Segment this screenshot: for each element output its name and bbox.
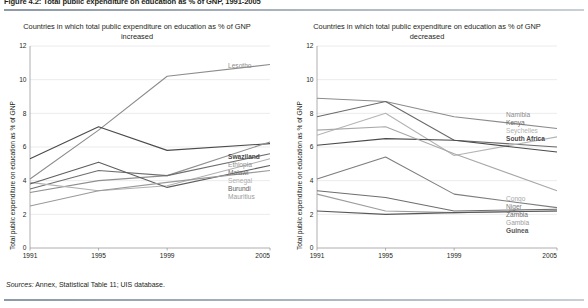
svg-text:4: 4 <box>310 177 314 184</box>
svg-text:2005: 2005 <box>255 252 270 259</box>
svg-text:2: 2 <box>310 211 314 218</box>
svg-text:8: 8 <box>310 110 314 117</box>
svg-text:10: 10 <box>306 76 314 83</box>
chart-panel-decreased: Countries in which total public expendit… <box>294 22 588 272</box>
legend-item: Namibia <box>506 111 545 119</box>
svg-text:1995: 1995 <box>378 252 393 259</box>
svg-text:12: 12 <box>306 42 314 49</box>
legend-item: Burundi <box>228 185 260 193</box>
legend-item: Zambia <box>506 211 529 219</box>
legend-item: Swaziland <box>228 153 260 161</box>
svg-text:2: 2 <box>23 211 27 218</box>
chart-title-decreased: Countries in which total public expendit… <box>294 22 546 41</box>
svg-text:4: 4 <box>23 177 27 184</box>
chart-title-increased: Countries in which total public expendit… <box>0 22 252 41</box>
svg-text:0: 0 <box>23 244 27 251</box>
svg-text:2005: 2005 <box>542 252 557 259</box>
chart-legend-decreased-top: NamibiaKenyaSeychellesSouth Africa <box>506 111 545 143</box>
legend-item: Niger <box>506 203 529 211</box>
legend-item: Mauritius <box>228 193 260 201</box>
svg-text:6: 6 <box>310 143 314 150</box>
svg-text:0: 0 <box>310 244 314 251</box>
top-rule <box>4 9 584 11</box>
figure-title: Figure 4.2: Total public expenditure on … <box>4 0 584 6</box>
svg-text:6: 6 <box>23 143 27 150</box>
legend-item: Ethiopia <box>228 161 260 169</box>
sources-note: Sources: Annex, Statistical Table 11; UI… <box>6 281 165 288</box>
svg-text:8: 8 <box>23 110 27 117</box>
bottom-rule <box>4 299 584 301</box>
legend-item: Kenya <box>506 119 545 127</box>
legend-item: South Africa <box>506 135 545 143</box>
svg-text:1999: 1999 <box>447 252 462 259</box>
svg-text:12: 12 <box>19 42 27 49</box>
legend-item: Malawi <box>228 169 260 177</box>
svg-text:1991: 1991 <box>23 252 38 259</box>
legend-item: Congo <box>506 195 529 203</box>
legend-item: Lesotho <box>228 62 251 70</box>
legend-item: Senegal <box>228 177 260 185</box>
chart-legend-decreased-bottom: CongoNigerZambiaGambiaGuinea <box>506 195 529 235</box>
chart-legend-increased-bottom: SwazilandEthiopiaMalawiSenegalBurundiMau… <box>228 153 260 202</box>
legend-item: Gambia <box>506 219 529 227</box>
legend-item: Seychelles <box>506 127 545 135</box>
chart-legend-increased-top: Lesotho <box>228 62 251 70</box>
svg-text:10: 10 <box>19 76 27 83</box>
sources-label: Sources: <box>6 281 34 288</box>
svg-text:1999: 1999 <box>160 252 175 259</box>
legend-item: Guinea <box>506 227 529 235</box>
svg-text:1995: 1995 <box>91 252 106 259</box>
plot-area-decreased: 0246810121991199519992005 <box>301 42 563 270</box>
chart-panel-increased: Countries in which total public expendit… <box>0 22 294 272</box>
svg-text:1991: 1991 <box>310 252 325 259</box>
sources-text: Annex, Statistical Table 11; UIS databas… <box>35 281 165 288</box>
